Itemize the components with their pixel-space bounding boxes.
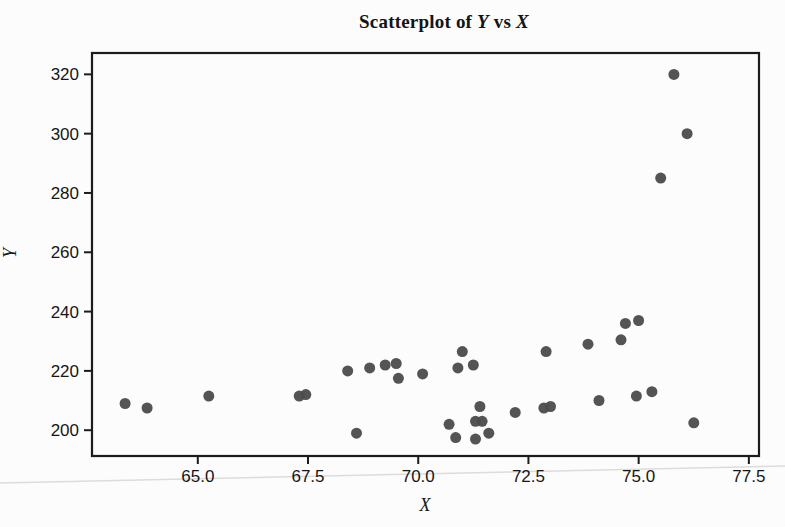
data-point [444,419,455,430]
scatterplot-figure: 65.067.570.072.575.077.52002202402602803… [0,0,785,527]
data-point [457,346,468,357]
y-tick-label: 300 [51,125,79,144]
x-tick-label: 75.0 [622,467,655,486]
data-point [633,315,644,326]
data-point [620,318,631,329]
data-point [470,434,481,445]
y-tick-label: 200 [51,421,79,440]
data-point [300,389,311,400]
data-point [468,360,479,371]
data-point [688,417,699,428]
x-tick-label: 65.0 [181,467,214,486]
data-point [483,428,494,439]
chart-title-vs: vs [489,11,516,32]
y-tick-label: 220 [51,362,79,381]
x-axis-label: X [420,495,431,516]
y-axis-label: Y [0,248,21,258]
data-point [594,395,605,406]
data-point [655,173,666,184]
chart-title: Scatterplot of Y vs X [359,11,529,33]
data-point [682,128,693,139]
data-point [391,358,402,369]
data-point [583,339,594,350]
data-point [668,69,679,80]
data-point [510,407,521,418]
data-point [631,391,642,402]
data-point [120,398,131,409]
data-point [351,428,362,439]
x-tick-label: 77.5 [732,467,765,486]
chart-title-y-var: Y [477,11,489,32]
page-scan-artifact-line [0,466,785,483]
plot-canvas: 65.067.570.072.575.077.52002202402602803… [0,0,785,527]
data-point [474,401,485,412]
data-point [541,346,552,357]
data-point [364,362,375,373]
data-point [452,362,463,373]
data-point [380,360,391,371]
chart-title-x-var: X [516,11,529,32]
y-tick-label: 280 [51,184,79,203]
data-point [393,373,404,384]
x-tick-label: 70.0 [402,467,435,486]
y-tick-label: 320 [51,65,79,84]
data-point [142,403,153,414]
data-point [342,365,353,376]
chart-title-prefix: Scatterplot of [359,11,477,32]
data-point [417,368,428,379]
data-point [477,416,488,427]
data-point [646,386,657,397]
data-point [545,401,556,412]
x-tick-label: 67.5 [291,467,324,486]
plot-border [92,53,759,456]
y-tick-label: 240 [51,303,79,322]
data-point [450,432,461,443]
data-point [203,391,214,402]
data-point [616,334,627,345]
y-tick-label: 260 [51,243,79,262]
x-tick-label: 72.5 [512,467,545,486]
